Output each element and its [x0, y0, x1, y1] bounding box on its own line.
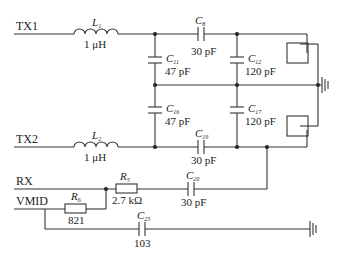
c11-value: 47 pF	[165, 65, 190, 77]
r6-ref: R6	[70, 190, 81, 203]
capacitor-c20	[188, 182, 194, 196]
capacitor-c17	[230, 107, 244, 113]
c17-ref: C17	[248, 102, 262, 115]
c25-ref: C25	[137, 209, 150, 222]
rx-net	[14, 147, 267, 193]
r5-ref: R5	[119, 170, 130, 183]
c19-ref: C19	[195, 127, 208, 140]
r6-value: 821	[68, 214, 85, 226]
l1-value: 1 μH	[84, 38, 106, 50]
net-label-vmid: VMID	[16, 194, 48, 208]
c20-ref: C20	[186, 169, 199, 182]
c8-ref: C8	[195, 14, 205, 27]
c19-value: 30 pF	[191, 154, 216, 166]
l2-ref: L2	[91, 129, 101, 142]
r5-value: 2.7 kΩ	[112, 194, 142, 206]
capacitor-c25	[139, 222, 145, 236]
capacitor-c12	[230, 57, 244, 63]
c17-value: 120 pF	[245, 115, 276, 127]
tx1-net	[14, 29, 307, 53]
top-antenna-box	[287, 43, 308, 63]
tx2-net	[14, 130, 307, 147]
c20-value: 30 pF	[181, 196, 206, 208]
c12-ref: C12	[248, 52, 261, 65]
c11-ref: C11	[166, 52, 179, 65]
l2-value: 1 μH	[84, 151, 106, 163]
capacitor-c19	[198, 140, 204, 154]
c25-value: 103	[134, 237, 151, 249]
l1-ref: L1	[91, 16, 101, 29]
c16-ref: C16	[166, 102, 179, 115]
capacitor-c16	[148, 107, 162, 113]
c8-value: 30 pF	[191, 45, 216, 57]
ground-vmid	[310, 221, 316, 237]
net-label-rx: RX	[16, 174, 33, 188]
vmid-net	[14, 189, 310, 229]
c16-value: 47 pF	[165, 115, 190, 127]
capacitor-c8	[198, 27, 204, 41]
net-label-tx2: TX2	[16, 132, 38, 146]
c12-value: 120 pF	[245, 65, 276, 77]
circuit-schematic: TX1 TX2 RX VMID L1 1 μH L2 1 μH C8 30 pF…	[0, 0, 345, 261]
capacitor-c11	[148, 57, 162, 63]
net-label-tx1: TX1	[16, 19, 38, 33]
ground-rail	[155, 77, 328, 93]
